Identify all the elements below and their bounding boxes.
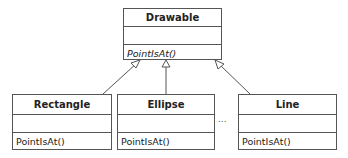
class-drawable: Drawable PointIsAt(): [123, 8, 222, 60]
class-operation: PointIsAt(): [124, 45, 221, 62]
class-operation: PointIsAt(): [118, 133, 214, 150]
class-rectangle: Rectangle PointIsAt(): [12, 94, 112, 150]
class-attributes: [118, 115, 214, 133]
class-line: Line PointIsAt(): [238, 94, 337, 150]
class-operation: PointIsAt(): [13, 133, 111, 150]
class-attributes: [124, 27, 221, 45]
more-classes-ellipsis: ...: [218, 114, 227, 124]
class-operation: PointIsAt(): [239, 133, 336, 150]
class-ellipse: Ellipse PointIsAt(): [117, 94, 215, 150]
class-attributes: [239, 115, 336, 133]
class-name: Line: [239, 95, 336, 115]
arrow-rectangle-to-drawable: [103, 63, 137, 94]
class-name: Ellipse: [118, 95, 214, 115]
class-attributes: [13, 115, 111, 133]
class-name: Drawable: [124, 9, 221, 27]
class-name: Rectangle: [13, 95, 111, 115]
arrow-line-to-drawable: [219, 64, 250, 94]
